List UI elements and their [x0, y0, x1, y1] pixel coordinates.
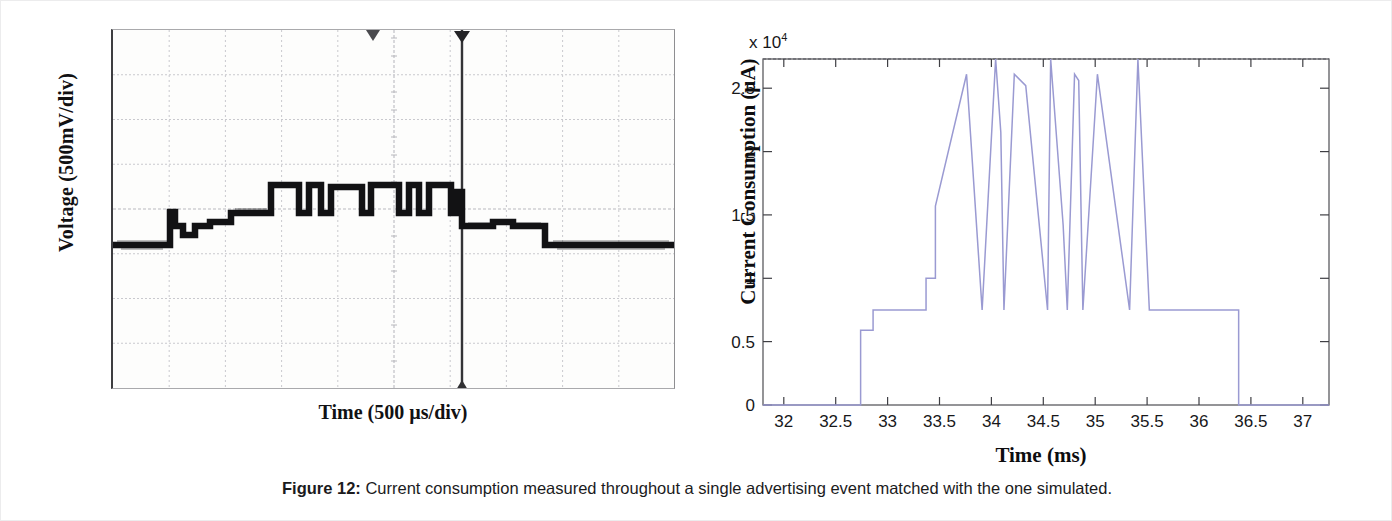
y-tick-label-1: 0.5 — [731, 333, 755, 352]
y-tick-label-2: 1 — [746, 269, 755, 288]
x-tick-label-0: 32 — [774, 412, 793, 431]
figure-caption-label: Figure 12: — [282, 479, 361, 497]
oscilloscope-y-axis-label: Voltage (500mV/div) — [55, 38, 78, 288]
x-tick-label-10: 37 — [1293, 412, 1312, 431]
plot-svg-container: 0 0.5 1 1.5 2 2.5 — [691, 53, 1351, 443]
figure-caption: Figure 12: Current consumption measured … — [1, 479, 1392, 498]
plot-x-tick-labels: 32 32.5 33 33.5 34 34.5 35 35.5 36 36.5 … — [774, 412, 1312, 431]
current-consumption-chart: 0 0.5 1 1.5 2 2.5 — [691, 53, 1351, 443]
plot-background — [763, 59, 1329, 405]
x-tick-label-6: 35 — [1086, 412, 1105, 431]
x-tick-label-7: 35.5 — [1131, 412, 1164, 431]
figure-container: Voltage (500mV/div) — [0, 0, 1392, 521]
y-tick-label-0: 0 — [746, 396, 755, 415]
x-tick-label-3: 33.5 — [923, 412, 956, 431]
x-tick-label-9: 36.5 — [1234, 412, 1267, 431]
oscilloscope-screen — [111, 29, 675, 389]
plot-x-axis-label: Time (ms) — [761, 443, 1321, 468]
x-tick-label-5: 34.5 — [1027, 412, 1060, 431]
y-tick-label-3: 1.5 — [731, 206, 755, 225]
plot-y-exponent-label: x 104 — [749, 31, 787, 53]
oscilloscope-trace-svg — [113, 30, 675, 388]
x-tick-label-2: 33 — [878, 412, 897, 431]
oscilloscope-x-axis-label: Time (500 µs/div) — [111, 401, 675, 424]
x-tick-label-4: 34 — [982, 412, 1001, 431]
oscilloscope-panel: Voltage (500mV/div) — [29, 21, 689, 451]
current-consumption-plot-panel: Current Consumption (µA) x 104 — [691, 19, 1371, 489]
plot-y-tick-labels: 0 0.5 1 1.5 2 2.5 — [731, 79, 755, 415]
x-tick-label-8: 36 — [1190, 412, 1209, 431]
x-tick-label-1: 32.5 — [819, 412, 852, 431]
figure-caption-text: Current consumption measured throughout … — [365, 479, 1112, 497]
y-tick-label-5: 2.5 — [731, 79, 755, 98]
y-tick-label-4: 2 — [746, 143, 755, 162]
